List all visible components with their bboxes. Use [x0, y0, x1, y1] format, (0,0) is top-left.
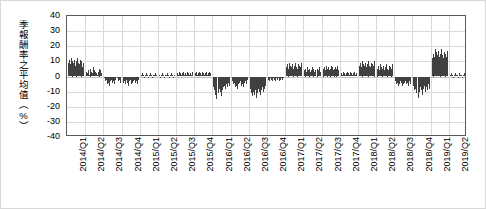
bar: [83, 63, 84, 77]
bar: [465, 75, 466, 77]
x-tick-label: 2014/Q4: [134, 137, 143, 172]
y-axis-label: 季報酬率之平均值（%）: [15, 15, 31, 135]
bar: [138, 77, 139, 80]
bar: [356, 73, 357, 76]
x-tick-label: 2015/Q2: [170, 137, 179, 172]
bar: [320, 72, 321, 77]
bar: [265, 77, 266, 86]
x-tick-label: 2019/Q2: [461, 137, 470, 172]
y-tick-label: 20: [50, 41, 60, 50]
plot-area: [66, 15, 466, 136]
x-tick-label: 2016/Q3: [261, 137, 270, 172]
bar: [458, 77, 459, 78]
bar: [453, 77, 454, 78]
bar: [169, 77, 170, 78]
y-tick-label: -20: [47, 101, 60, 110]
bar: [447, 51, 448, 77]
y-tick-label: 40: [50, 11, 60, 20]
bar: [374, 61, 375, 76]
x-tick-label: 2016/Q2: [243, 137, 252, 172]
bar: [283, 77, 284, 79]
x-tick-label: 2017/Q3: [334, 137, 343, 172]
x-tick-label: 2016/Q4: [279, 137, 288, 172]
bar-series: [67, 16, 465, 135]
bar: [173, 77, 174, 78]
bar: [410, 77, 411, 85]
x-tick-label: 2018/Q1: [370, 137, 379, 172]
x-tick-label: 2015/Q4: [206, 137, 215, 172]
bar: [338, 70, 339, 76]
y-tick-label: 10: [50, 56, 60, 65]
bar: [301, 63, 302, 77]
bar: [148, 77, 149, 78]
bar: [392, 64, 393, 76]
x-tick-label: 2015/Q1: [152, 137, 161, 172]
y-axis-tick-labels: 403020100-10-20-30-40: [32, 15, 60, 136]
x-tick-label: 2014/Q2: [97, 137, 106, 172]
bar: [120, 77, 121, 83]
x-tick-label: 2017/Q1: [297, 137, 306, 172]
bar: [152, 77, 153, 78]
y-tick-label: 0: [55, 71, 60, 80]
bar: [429, 77, 430, 89]
bar: [174, 75, 175, 77]
x-tick-label: 2015/Q3: [188, 137, 197, 172]
x-tick-label: 2018/Q3: [406, 137, 415, 172]
bar: [229, 77, 230, 86]
bar: [144, 77, 145, 78]
x-tick-label: 2018/Q4: [425, 137, 434, 172]
x-tick-label: 2014/Q1: [79, 137, 88, 172]
chart-figure: 季報酬率之平均值（%） 403020100-10-20-30-40 2014/Q…: [0, 0, 486, 209]
bar: [164, 77, 165, 78]
bar: [101, 73, 102, 76]
x-tick-label: 2018/Q2: [388, 137, 397, 172]
bar: [160, 77, 161, 78]
x-tick-label: 2017/Q4: [352, 137, 361, 172]
y-tick-label: 30: [50, 26, 60, 35]
bar: [192, 72, 193, 77]
y-tick-label: -10: [47, 86, 60, 95]
bar: [247, 77, 248, 80]
x-tick-label: 2014/Q3: [115, 137, 124, 172]
x-tick-label: 2017/Q2: [315, 137, 324, 172]
bar: [462, 77, 463, 78]
y-tick-label: -40: [47, 132, 60, 141]
bar: [210, 73, 211, 76]
y-tick-label: -30: [47, 116, 60, 125]
x-tick-label: 2019/Q1: [443, 137, 452, 172]
x-axis-tick-labels: 2014/Q12014/Q22014/Q32014/Q42015/Q12015/…: [66, 137, 466, 197]
bar: [156, 75, 157, 77]
x-tick-label: 2016/Q1: [225, 137, 234, 172]
